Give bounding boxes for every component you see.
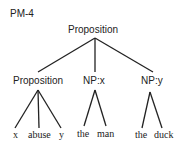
node-proposition: Proposition [13, 76, 63, 86]
leaf-man: man [97, 129, 114, 139]
leaf-the-2: the [135, 130, 147, 140]
leaf-the-1: the [77, 129, 89, 139]
node-np-x: NP:x [83, 76, 105, 86]
leaf-x: x [13, 130, 18, 140]
node-np-y: NP:y [141, 76, 163, 86]
leaf-y: y [59, 130, 64, 140]
leaf-abuse: abuse [28, 130, 51, 140]
leaf-duck: duck [154, 130, 173, 140]
